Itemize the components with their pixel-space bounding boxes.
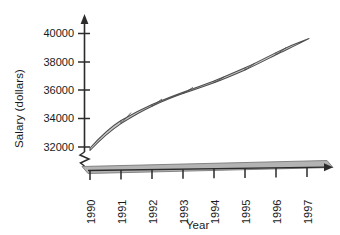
x-tick-label-1996: 1996 xyxy=(271,200,283,224)
y-tick-label-40000: 40000 xyxy=(22,27,74,39)
y-axis-title: Salary (dollars) xyxy=(13,69,25,148)
y-tick-label-36000: 36000 xyxy=(22,84,74,96)
y-tick-label-38000: 38000 xyxy=(22,56,74,68)
y-tick-label-32000: 32000 xyxy=(22,141,74,153)
x-axis-title: Year xyxy=(186,219,209,231)
x-tick-label-1990: 1990 xyxy=(85,200,97,224)
x-tick-label-1994: 1994 xyxy=(209,200,221,224)
chart-container: Salary (dollars) 40000 38000 36000 34000… xyxy=(0,0,340,235)
y-tick-label-34000: 34000 xyxy=(22,112,74,124)
y-axis xyxy=(81,14,89,152)
x-tick-label-1995: 1995 xyxy=(240,200,252,224)
x-tick-label-1997: 1997 xyxy=(302,200,314,224)
y-axis-break-icon xyxy=(80,152,89,166)
data-series-salary-ribbon xyxy=(90,39,309,151)
x-axis-band xyxy=(82,161,333,174)
x-tick-label-1992: 1992 xyxy=(147,200,159,224)
x-tick-label-1991: 1991 xyxy=(116,200,128,224)
